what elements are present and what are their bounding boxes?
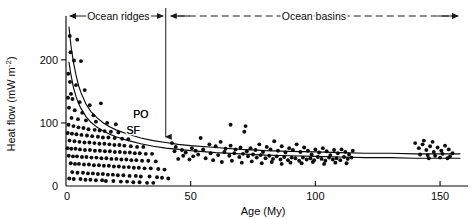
data-point xyxy=(244,124,248,128)
data-point xyxy=(300,161,304,165)
data-point xyxy=(148,175,152,179)
scatter-point-group xyxy=(66,34,455,185)
heat-flow-scatter-chart: 0100200050100150Age (My)Heat flow (mW m-… xyxy=(0,0,473,219)
data-point xyxy=(114,122,118,126)
data-point xyxy=(66,72,70,76)
data-point xyxy=(81,171,85,175)
data-point xyxy=(255,156,259,160)
data-point xyxy=(107,164,111,168)
data-point xyxy=(211,158,215,162)
data-point xyxy=(106,135,110,139)
data-point xyxy=(146,159,150,163)
data-point xyxy=(72,177,76,181)
data-point xyxy=(84,178,88,182)
data-point xyxy=(295,142,299,146)
data-point xyxy=(418,153,422,157)
data-point xyxy=(75,38,79,42)
data-point xyxy=(229,144,233,148)
data-point xyxy=(83,148,87,152)
data-point xyxy=(176,157,180,161)
data-point xyxy=(127,165,131,169)
data-point xyxy=(66,96,70,100)
data-point xyxy=(73,139,77,143)
data-point xyxy=(131,180,135,184)
data-point xyxy=(76,117,80,121)
data-point xyxy=(112,143,116,147)
data-point xyxy=(230,159,234,163)
data-point xyxy=(78,147,82,151)
data-point xyxy=(133,151,137,155)
data-point xyxy=(119,180,123,184)
data-point xyxy=(68,139,72,143)
data-point xyxy=(139,175,143,179)
data-point xyxy=(91,171,95,175)
y-tick-label-100: 100 xyxy=(40,117,58,129)
data-point xyxy=(134,174,138,178)
data-point xyxy=(112,165,116,169)
data-point xyxy=(118,150,122,154)
data-point xyxy=(264,156,268,160)
data-point xyxy=(150,152,154,156)
data-point xyxy=(123,151,127,155)
data-point xyxy=(332,148,336,152)
data-point xyxy=(280,144,284,148)
data-point xyxy=(138,180,142,184)
data-point xyxy=(137,166,141,170)
data-point xyxy=(86,127,90,131)
data-point xyxy=(121,173,125,177)
data-point xyxy=(94,156,98,160)
data-point xyxy=(80,133,84,137)
data-point xyxy=(68,80,72,84)
data-point xyxy=(108,149,112,153)
y-axis-title: Heat flow (mW m-2) xyxy=(4,56,18,151)
data-point xyxy=(250,159,254,163)
data-point xyxy=(173,149,177,153)
data-point xyxy=(74,83,78,87)
data-point xyxy=(240,161,244,165)
data-point xyxy=(66,146,70,150)
data-point xyxy=(156,167,160,171)
data-point xyxy=(166,176,170,180)
data-point xyxy=(313,147,317,151)
data-point xyxy=(70,132,74,136)
data-point xyxy=(103,149,107,153)
data-point xyxy=(69,147,73,151)
data-point xyxy=(422,139,426,143)
data-point xyxy=(125,180,129,184)
data-point xyxy=(287,146,291,150)
data-point xyxy=(143,166,147,170)
data-point xyxy=(97,142,101,146)
data-point xyxy=(114,157,118,161)
data-point xyxy=(78,140,82,144)
data-point xyxy=(71,154,75,158)
data-point xyxy=(134,158,138,162)
data-point xyxy=(451,151,455,155)
data-point xyxy=(100,178,104,182)
x-tick-label-50: 50 xyxy=(185,190,197,202)
curve-label-sf: SF xyxy=(127,124,140,136)
x-tick-label-150: 150 xyxy=(431,190,449,202)
data-point xyxy=(149,166,153,170)
data-point xyxy=(207,142,211,146)
data-point xyxy=(160,176,164,180)
data-point xyxy=(219,140,223,144)
data-point xyxy=(163,168,167,172)
data-point xyxy=(93,149,97,153)
data-point xyxy=(102,164,106,168)
data-point xyxy=(128,151,132,155)
data-point xyxy=(106,173,110,177)
data-point xyxy=(66,131,70,135)
data-point xyxy=(86,171,90,175)
data-point xyxy=(336,151,340,155)
data-point xyxy=(305,158,309,162)
data-point xyxy=(199,136,203,140)
data-point xyxy=(74,147,78,151)
data-point xyxy=(293,156,297,160)
data-point xyxy=(340,147,344,151)
data-point xyxy=(117,143,121,147)
data-point xyxy=(111,173,115,177)
data-point xyxy=(421,142,425,146)
data-point xyxy=(138,151,142,155)
data-point xyxy=(345,161,349,165)
data-point xyxy=(80,155,84,159)
